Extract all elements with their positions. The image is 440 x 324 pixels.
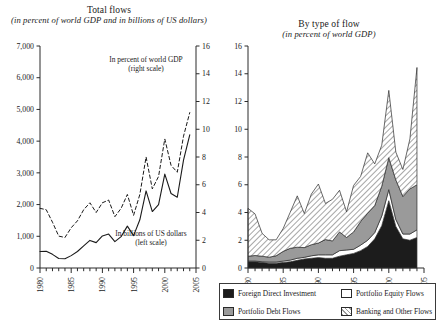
left-chart-canvas: 01,0002,0003,0004,0005,0006,0007,0000246… — [0, 0, 218, 324]
y-tick-label: 4 — [238, 208, 242, 217]
legend-swatch-debt — [223, 307, 234, 316]
left-y-tick-label: 7,000 — [16, 42, 34, 51]
x-tick-label: 2000 — [161, 277, 170, 293]
right-y-tick-label: 10 — [202, 125, 210, 134]
legend-label-equity: Portfolio Equity Flows — [356, 289, 424, 298]
legend-label-debt: Portfolio Debt Flows — [238, 307, 300, 316]
x-tick-label: 1990 — [98, 277, 107, 293]
left-y-tick-label: 5,000 — [16, 105, 34, 114]
right-y-tick-label: 4 — [202, 208, 206, 217]
x-tick-label: 1985 — [67, 277, 76, 293]
panel-total-flows: Total flows (in percent of world GDP and… — [0, 0, 218, 324]
legend-swatch-fdi — [223, 289, 234, 298]
legend-item-banking-and-other-flows: Banking and Other Flows — [341, 307, 440, 316]
y-tick-label: 2 — [238, 236, 242, 245]
y-tick-label: 10 — [234, 125, 242, 134]
left-y-tick-label: 6,000 — [16, 73, 34, 82]
legend-swatch-banking — [341, 307, 352, 316]
legend-item-foreign-direct-investment: Foreign Direct Investment — [223, 289, 341, 298]
chart-legend: Foreign Direct Investment Portfolio Equi… — [219, 283, 436, 320]
y-tick-label: 8 — [238, 153, 242, 162]
left-y-tick-label: 1,000 — [16, 232, 34, 241]
left-y-tick-label: 0 — [30, 264, 34, 273]
right-y-tick-label: 16 — [202, 42, 210, 51]
left-y-tick-label: 3,000 — [16, 169, 34, 178]
x-tick-label: 2005 — [192, 277, 201, 293]
y-tick-label: 16 — [234, 42, 242, 51]
right-y-tick-label: 12 — [202, 97, 210, 106]
y-tick-label: 12 — [234, 97, 242, 106]
right-y-tick-label: 0 — [202, 264, 206, 273]
panel-by-type-of-flow: By type of flow (in percent of world GDP… — [218, 0, 440, 324]
figure-root: Total flows (in percent of world GDP and… — [0, 0, 440, 324]
right-y-tick-label: 14 — [202, 69, 210, 78]
y-tick-label: 0 — [238, 264, 242, 273]
legend-label-banking: Banking and Other Flows — [356, 307, 432, 316]
left-y-tick-label: 2,000 — [16, 200, 34, 209]
right-y-tick-label: 8 — [202, 153, 206, 162]
series-billions-usd-line — [40, 135, 190, 259]
right-y-tick-label: 2 — [202, 236, 206, 245]
series-percent-of-gdp-line — [40, 113, 190, 238]
y-tick-label: 6 — [238, 180, 242, 189]
legend-item-portfolio-debt-flows: Portfolio Debt Flows — [223, 307, 341, 316]
x-tick-label: 1980 — [36, 277, 45, 293]
left-y-tick-label: 4,000 — [16, 137, 34, 146]
right-chart-canvas: 0246810121416198019851990199520002005 — [218, 0, 440, 324]
legend-label-fdi: Foreign Direct Investment — [238, 289, 316, 298]
y-tick-label: 14 — [234, 69, 242, 78]
right-y-tick-label: 6 — [202, 180, 206, 189]
legend-swatch-equity — [341, 289, 352, 298]
legend-item-portfolio-equity-flows: Portfolio Equity Flows — [341, 289, 440, 298]
x-tick-label: 1995 — [130, 277, 139, 293]
